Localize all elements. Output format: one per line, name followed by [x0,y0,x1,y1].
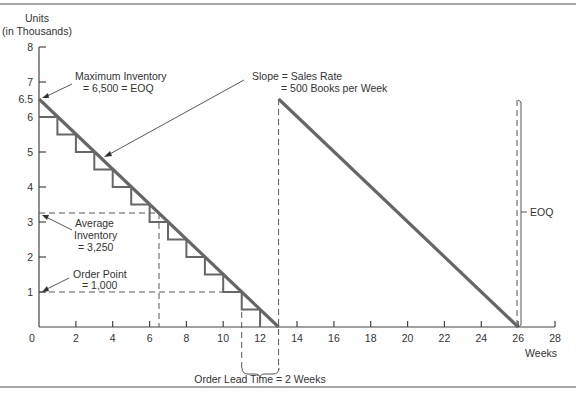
svg-text:6.5: 6.5 [18,93,33,105]
weekly-step-series [39,117,260,327]
svg-text:= 6,500 = EOQ: = 6,500 = EOQ [83,82,154,94]
eoq-inventory-chart: Units (in Thousands) 8 7 6.5 6 5 4 3 2 1… [0,0,576,399]
svg-text:10: 10 [217,332,229,344]
lead-time-label: Order Lead Time = 2 Weeks [194,373,325,385]
svg-text:Inventory: Inventory [74,229,118,241]
svg-text:Average: Average [75,217,114,229]
svg-text:Maximum Inventory: Maximum Inventory [75,70,167,82]
svg-text:= 1,000: = 1,000 [82,279,117,291]
svg-text:6: 6 [147,332,153,344]
y-axis-label: Units [25,12,49,24]
eoq-label: EOQ [530,206,553,218]
svg-text:18: 18 [365,332,377,344]
svg-text:1: 1 [27,286,33,298]
svg-text:8: 8 [183,332,189,344]
max-inventory-annotation: Maximum Inventory = 6,500 = EOQ [42,70,167,98]
svg-text:7: 7 [27,76,33,88]
x-ticks: 0 2 4 6 8 10 12 14 16 18 20 22 24 26 28 [29,321,561,344]
svg-text:5: 5 [27,146,33,158]
svg-text:26: 26 [512,332,524,344]
svg-text:24: 24 [475,332,487,344]
x-axis-label: Weeks [525,347,557,359]
svg-text:= 3,250: = 3,250 [78,241,113,253]
svg-text:16: 16 [328,332,340,344]
svg-text:12: 12 [254,332,266,344]
average-inventory-annotation: Average Inventory = 3,250 [42,215,118,253]
svg-text:0: 0 [29,332,35,344]
eoq-bracket [518,100,521,327]
y-axis-label-unit: (in Thousands) [2,25,72,37]
svg-text:22: 22 [439,332,451,344]
svg-text:20: 20 [402,332,414,344]
svg-text:2: 2 [73,332,79,344]
svg-text:2: 2 [27,251,33,263]
inventory-sawtooth-series-2 [279,99,519,327]
svg-text:28: 28 [549,332,561,344]
svg-text:Slope = Sales Rate: Slope = Sales Rate [252,70,342,82]
order-point-annotation: Order Point = 1,000 [42,268,127,292]
svg-text:= 500 Books per Week: = 500 Books per Week [281,82,388,94]
svg-text:6: 6 [27,111,33,123]
svg-text:4: 4 [27,181,33,193]
y-ticks: 8 7 6.5 6 5 4 3 2 1 [18,41,46,298]
svg-text:8: 8 [27,41,33,53]
svg-text:14: 14 [291,332,303,344]
svg-text:3: 3 [27,216,33,228]
svg-text:4: 4 [110,332,116,344]
